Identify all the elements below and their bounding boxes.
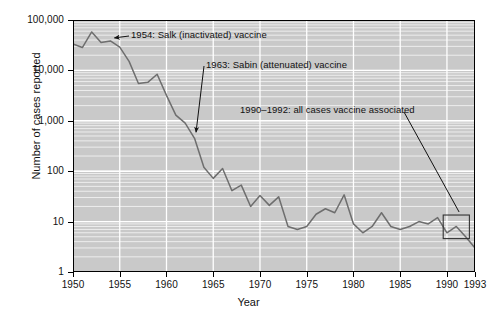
x-tick-label: 1960 [146,279,186,290]
plot-area [73,20,475,272]
x-tick-label: 1975 [287,279,327,290]
y-axis-title: Number of cases reported [30,6,42,226]
x-tick-mark [260,272,261,277]
x-tick-label: 1980 [333,279,373,290]
x-tick-label: 1993 [455,279,495,290]
x-tick-mark [73,272,74,277]
x-tick-label: 1970 [240,279,280,290]
x-tick-label: 1950 [53,279,93,290]
x-tick-label: 1965 [193,279,233,290]
chart-figure: 1101001,00010,000100,000 Number of cases… [0,0,497,323]
x-tick-mark [447,272,448,277]
y-tick-label: 1 [0,266,64,277]
annotation-vaccine-associated: 1990–1992: all cases vaccine associated [240,104,415,115]
x-tick-label: 1985 [380,279,420,290]
x-axis-title: Year [0,296,497,308]
annotation-salk-vaccine: 1954: Salk (inactivated) vaccine [131,29,267,40]
x-tick-mark [213,272,214,277]
y-tick-mark [68,222,73,223]
x-tick-mark [353,272,354,277]
x-tick-mark [120,272,121,277]
x-tick-mark [307,272,308,277]
y-tick-mark [68,121,73,122]
plot-canvas [73,20,475,272]
y-tick-mark [68,70,73,71]
x-tick-mark [400,272,401,277]
x-tick-mark [166,272,167,277]
y-tick-mark [68,171,73,172]
x-tick-label: 1955 [100,279,140,290]
y-tick-mark [68,20,73,21]
annotation-sabin-vaccine: 1963: Sabin (attenuated) vaccine [206,59,347,70]
x-tick-mark [475,272,476,277]
